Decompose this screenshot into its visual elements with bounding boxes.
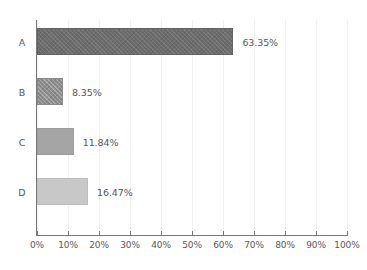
bar-value-label-a: 63.35%: [242, 36, 278, 47]
x-tick-label: 10%: [58, 240, 78, 250]
x-tick-label: 60%: [213, 240, 233, 250]
bar-chart: 0%10%20%30%40%50%60%70%80%90%100% ABCD 6…: [0, 0, 367, 270]
category-label-a: A: [12, 36, 32, 47]
x-tick-mark: [223, 231, 224, 236]
x-tick-label: 90%: [306, 240, 326, 250]
bar-row: 11.84%: [37, 128, 347, 155]
gridline: [347, 20, 348, 235]
x-tick-mark: [161, 231, 162, 236]
x-tick-mark: [130, 231, 131, 236]
x-tick-label: 30%: [120, 240, 140, 250]
x-tick-label: 40%: [151, 240, 171, 250]
x-tick-mark: [192, 231, 193, 236]
x-tick-label: 100%: [334, 240, 359, 250]
bar-value-label-d: 16.47%: [97, 186, 133, 197]
category-label-d: D: [12, 186, 32, 197]
bar-row: 8.35%: [37, 78, 347, 105]
x-tick-mark: [316, 231, 317, 236]
x-tick-mark: [285, 231, 286, 236]
bar-value-label-c: 11.84%: [83, 136, 119, 147]
bar-row: 16.47%: [37, 178, 347, 205]
x-tick-mark: [99, 231, 100, 236]
bar-d[interactable]: [37, 178, 88, 205]
x-tick-label: 50%: [182, 240, 202, 250]
x-tick-mark: [347, 231, 348, 236]
x-tick-label: 70%: [244, 240, 264, 250]
bar-b[interactable]: [37, 78, 63, 105]
category-label-b: B: [12, 86, 32, 97]
bar-a[interactable]: [37, 28, 233, 55]
x-tick-label: 80%: [275, 240, 295, 250]
x-tick-label: 0%: [30, 240, 44, 250]
bar-row: 63.35%: [37, 28, 347, 55]
x-tick-mark: [37, 231, 38, 236]
bar-value-label-b: 8.35%: [72, 86, 102, 97]
category-label-c: C: [12, 136, 32, 147]
x-tick-mark: [254, 231, 255, 236]
x-tick-mark: [68, 231, 69, 236]
x-tick-label: 20%: [89, 240, 109, 250]
bar-c[interactable]: [37, 128, 74, 155]
